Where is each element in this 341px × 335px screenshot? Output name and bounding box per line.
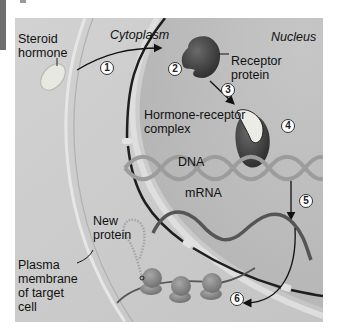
step-5-badge: 5 bbox=[299, 194, 313, 208]
step-1-badge: 1 bbox=[100, 61, 114, 75]
step-3-badge: 3 bbox=[221, 83, 235, 97]
receptor-protein-label: Receptor protein bbox=[231, 54, 282, 82]
step-4-badge: 4 bbox=[281, 119, 295, 133]
nucleus-label: Nucleus bbox=[271, 30, 316, 44]
page-edge-strip bbox=[0, 0, 6, 50]
step-6-badge: 6 bbox=[230, 292, 244, 306]
diagram-panel: Cytoplasm Nucleus Steroid hormone Recept… bbox=[15, 18, 323, 322]
plasma-membrane-label: Plasma membrane of target cell bbox=[18, 258, 78, 314]
step-2-badge: 2 bbox=[168, 62, 182, 76]
page-top-mark bbox=[20, 0, 26, 3]
cytoplasm-label: Cytoplasm bbox=[110, 28, 169, 42]
mrna-label: mRNA bbox=[185, 186, 222, 200]
steroid-hormone-label: Steroid hormone bbox=[18, 32, 67, 60]
new-protein-label: New protein bbox=[93, 214, 131, 242]
hormone-receptor-complex-label: Hormone-receptor complex bbox=[144, 108, 245, 136]
dna-label: DNA bbox=[178, 155, 204, 169]
